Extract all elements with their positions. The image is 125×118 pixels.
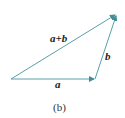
label-a-plus-b: a+b (50, 32, 68, 44)
label-b: b (105, 50, 111, 62)
label-a: a (55, 78, 61, 90)
vector-a-plus-b (11, 15, 115, 79)
figure-caption: (b) (53, 101, 66, 114)
vector-triangle-diagram: a+b b a (b) (0, 0, 125, 118)
